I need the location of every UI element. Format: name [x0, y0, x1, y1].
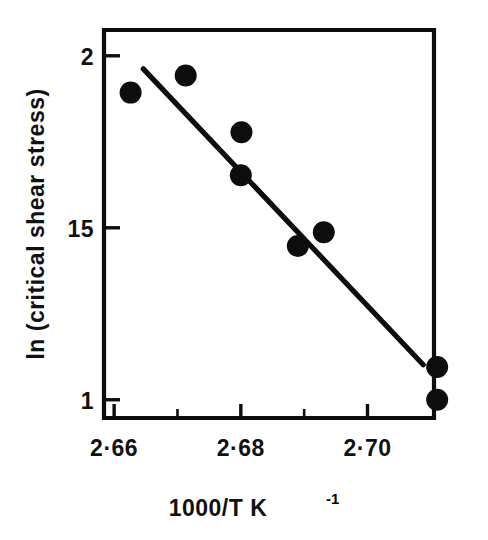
- data-points-layer: [120, 64, 449, 410]
- arrhenius-scatter-plot: 2·662·682·702151 ln (critical shear stre…: [0, 0, 488, 540]
- data-point: [230, 164, 252, 186]
- data-point: [120, 82, 142, 104]
- y-axis-title-group: ln (critical shear stress): [23, 88, 49, 359]
- data-point: [426, 389, 448, 411]
- x-tick-label: 2·68: [217, 435, 265, 461]
- x-axis-title: 1000/T K: [169, 495, 268, 521]
- figure-container: 2·662·682·702151 ln (critical shear stre…: [0, 0, 488, 540]
- fit-line: [143, 69, 423, 365]
- data-point: [313, 221, 335, 243]
- data-point: [175, 64, 197, 86]
- axes-box: [104, 30, 434, 418]
- x-tick-label: 2·66: [90, 435, 138, 461]
- x-tick-label: 2·70: [343, 435, 391, 461]
- x-axis-title-exponent: -1: [326, 490, 339, 507]
- fit-line-layer: [143, 69, 423, 365]
- data-point: [287, 235, 309, 257]
- y-axis-title: ln (critical shear stress): [23, 88, 49, 359]
- data-point: [230, 121, 252, 143]
- x-axis-title-group: 1000/T K -1: [169, 490, 340, 521]
- plot-frame: [104, 30, 434, 418]
- data-point: [426, 356, 448, 378]
- y-tick-label: 1: [81, 388, 94, 414]
- y-tick-label: 2: [81, 44, 94, 70]
- y-tick-label: 15: [67, 216, 94, 242]
